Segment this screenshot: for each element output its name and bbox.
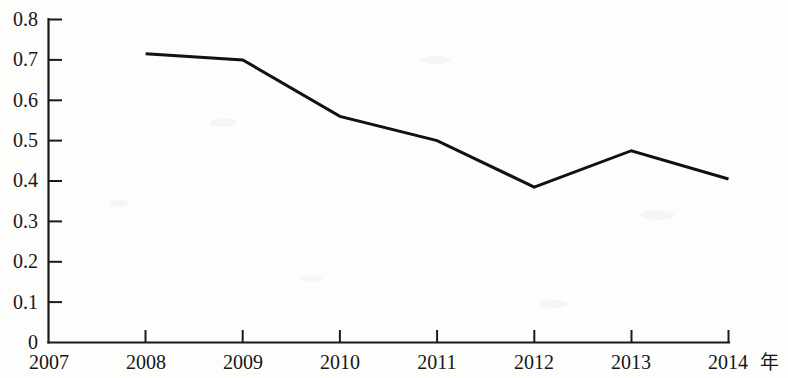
x-axis-unit-label: 年 [760, 353, 779, 372]
y-tick-label-0.6: 0.6 [0, 90, 38, 110]
y-tick-label-0.2: 0.2 [0, 251, 38, 271]
x-axis-ticks [146, 330, 729, 343]
x-tick-label-2008: 2008 [105, 352, 187, 372]
y-tick-label-0.1: 0.1 [0, 292, 38, 312]
y-axis-ticks [49, 20, 63, 303]
x-tick-label-2014: 2014 [687, 352, 769, 372]
y-tick-label-0: 0 [0, 332, 38, 352]
y-tick-label-0.7: 0.7 [0, 49, 38, 69]
y-tick-label-0.3: 0.3 [0, 211, 38, 231]
chart-canvas [0, 0, 788, 378]
y-tick-label-0.8: 0.8 [0, 9, 38, 29]
data-series-line [146, 54, 729, 187]
x-tick-label-2013: 2013 [590, 352, 672, 372]
y-tick-label-0.4: 0.4 [0, 170, 38, 190]
x-tick-label-2010: 2010 [299, 352, 381, 372]
x-tick-label-2007: 2007 [8, 352, 90, 372]
y-tick-label-0.5: 0.5 [0, 130, 38, 150]
x-tick-label-2012: 2012 [493, 352, 575, 372]
line-chart: 0.8 0.7 0.6 0.5 0.4 0.3 0.2 0.1 0 2007 2… [0, 0, 788, 378]
x-tick-label-2009: 2009 [202, 352, 284, 372]
x-tick-label-2011: 2011 [396, 352, 478, 372]
